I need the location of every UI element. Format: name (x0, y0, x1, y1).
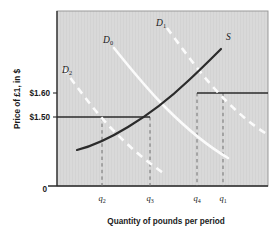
y-tick-label-160: $1.60 (30, 89, 51, 98)
y-tick-label-150: $1.50 (30, 113, 51, 122)
x-tick-label-q1: q1 (219, 193, 226, 204)
x-axis-title: Quantity of pounds per period (107, 217, 224, 226)
x-tick-label-q2: q2 (98, 193, 105, 204)
plot-background (57, 11, 268, 186)
y-axis-title: Price of £1, in $ (13, 69, 22, 130)
supply-demand-figure: S D0 D1 D2 $1.60 $1.50 0 q2 q3 q4 q1 Qua… (0, 0, 279, 240)
x-tick-label-q4: q4 (193, 193, 200, 204)
curve-label-s: S (226, 32, 231, 42)
origin-label: 0 (42, 185, 47, 194)
x-tick-label-q3: q3 (146, 193, 153, 204)
chart-svg: S D0 D1 D2 $1.60 $1.50 0 q2 q3 q4 q1 Qua… (0, 0, 279, 240)
